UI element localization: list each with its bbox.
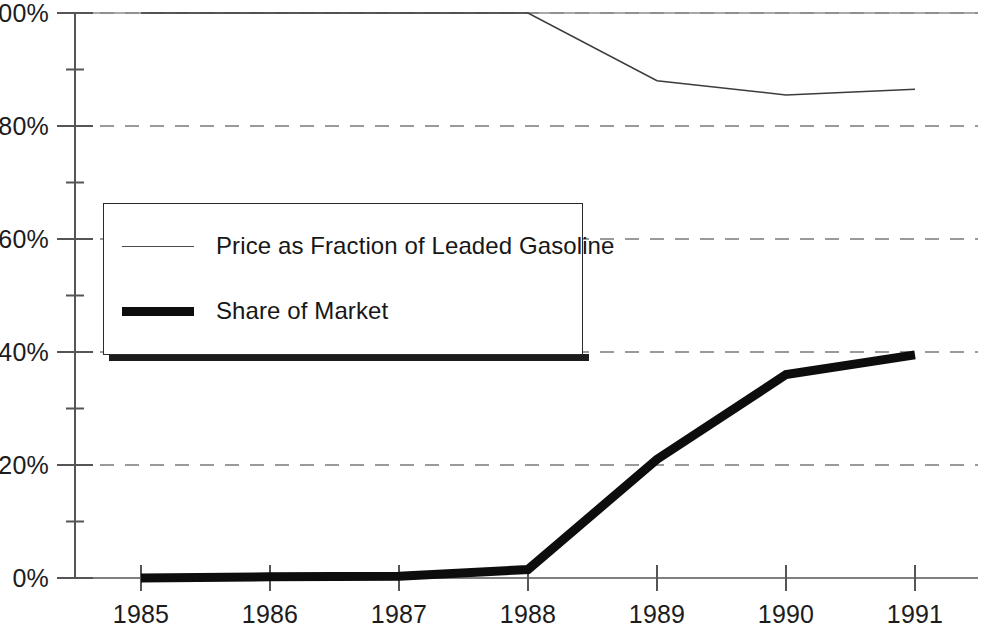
y-tick-label-100: 100% xyxy=(0,0,49,28)
thick-line-swatch xyxy=(122,307,194,316)
x-tick-label-1988: 1988 xyxy=(500,600,556,627)
y-tick-label-40: 40% xyxy=(0,338,49,367)
x-tick-label-1986: 1986 xyxy=(242,600,298,627)
y-tick-label-60: 60% xyxy=(0,225,49,254)
legend-item-share: Share of Market xyxy=(122,297,388,325)
x-tick-label-1991: 1991 xyxy=(887,600,943,627)
legend-label-price: Price as Fraction of Leaded Gasoline xyxy=(216,232,615,260)
series-line-share xyxy=(141,355,915,578)
y-tick-label-80: 80% xyxy=(0,112,49,141)
chart-legend: Price as Fraction of Leaded Gasoline Sha… xyxy=(103,203,583,355)
x-tick-label-1989: 1989 xyxy=(629,600,685,627)
y-tick-label-0: 0% xyxy=(12,564,49,593)
thin-line-swatch xyxy=(122,246,194,247)
y-tick-label-20: 20% xyxy=(0,451,49,480)
x-tick-label-1985: 1985 xyxy=(113,600,169,627)
x-tick-label-1990: 1990 xyxy=(758,600,814,627)
x-tick-label-1987: 1987 xyxy=(371,600,427,627)
legend-label-share: Share of Market xyxy=(216,297,388,325)
legend-item-price: Price as Fraction of Leaded Gasoline xyxy=(122,232,615,260)
series-line-price xyxy=(141,13,915,95)
legend-shadow xyxy=(109,354,589,361)
